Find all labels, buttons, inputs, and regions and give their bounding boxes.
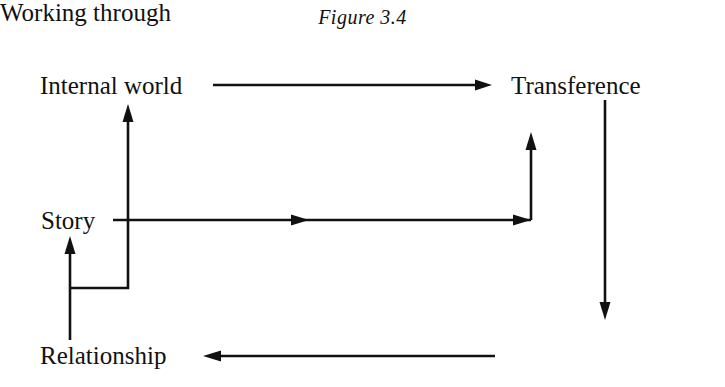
edge-line: [70, 118, 128, 288]
arrow-up-icon: [526, 132, 537, 150]
edge-story-to-transference: [113, 132, 537, 226]
edge-working-through-to-relationship: [203, 351, 495, 362]
arrow-right-icon: [513, 215, 531, 226]
edge-relationship-to-internal-world: [70, 104, 134, 288]
edge-internal-world-to-transference: [213, 80, 492, 91]
arrow-down-icon: [600, 302, 611, 320]
arrow-up-icon: [65, 236, 76, 254]
arrow-right-icon: [291, 215, 309, 226]
arrow-left-icon: [203, 351, 221, 362]
arrow-up-icon: [123, 104, 134, 122]
arrow-layer: [0, 0, 725, 387]
edge-transference-to-working-through: [600, 100, 611, 320]
figure-diagram: Figure 3.4 Internal world Transference S…: [0, 0, 725, 387]
arrow-right-icon: [475, 80, 492, 91]
